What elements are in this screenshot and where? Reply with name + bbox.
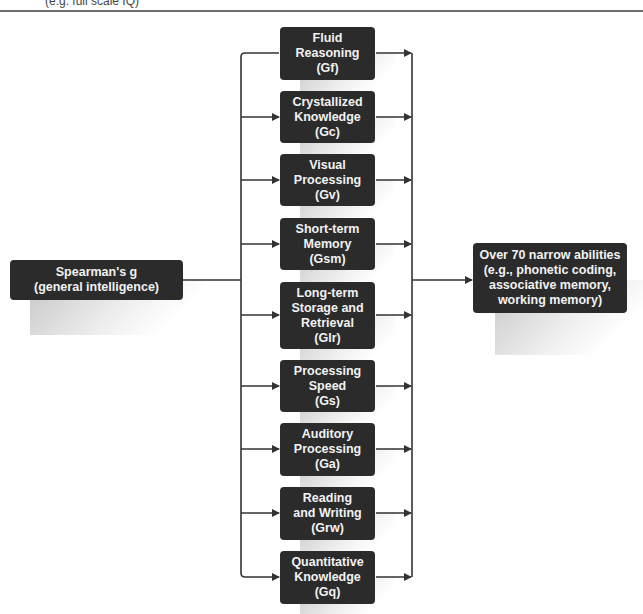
node-visual-processing: Visual Processing (Gv) <box>280 154 375 206</box>
node-reading-writing: Reading and Writing (Grw) <box>280 487 375 540</box>
node-fluid-reasoning: Fluid Reasoning (Gf) <box>280 27 375 80</box>
node-short-term-memory: Short-term Memory (Gsm) <box>280 218 375 270</box>
node-spearmans-g: Spearman's g (general intelligence) <box>10 260 183 300</box>
node-quantitative-knowledge: Quantitative Knowledge (Gq) <box>280 551 375 604</box>
node-processing-speed: Processing Speed (Gs) <box>280 360 375 412</box>
node-auditory-processing: Auditory Processing (Ga) <box>280 423 375 476</box>
node-narrow-abilities: Over 70 narrow abilities (e.g., phonetic… <box>473 243 627 313</box>
node-crystallized-knowledge: Crystallized Knowledge (Gc) <box>280 91 375 143</box>
node-long-term-storage: Long-term Storage and Retrieval (Glr) <box>280 282 375 349</box>
